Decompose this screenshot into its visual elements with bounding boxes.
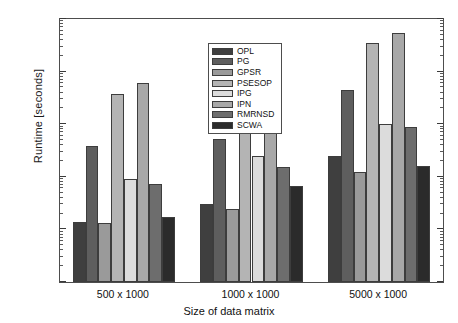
y-axis-minor-tick bbox=[440, 192, 443, 193]
y-axis-minor-tick bbox=[440, 92, 443, 93]
y-axis-minor-tick bbox=[440, 126, 443, 127]
y-axis-minor-tick bbox=[60, 160, 63, 161]
y-axis-minor-tick bbox=[440, 213, 443, 214]
bar bbox=[392, 33, 405, 282]
legend-item[interactable]: IPN bbox=[212, 99, 278, 110]
y-axis-major-tick bbox=[437, 123, 443, 124]
chart-legend: OPLPGGPSRPSESOPIPGIPNRMRNSDSCWA bbox=[208, 43, 282, 134]
legend-swatch bbox=[212, 101, 233, 108]
x-axis-title: Size of data matrix bbox=[0, 305, 458, 317]
y-axis-minor-tick bbox=[440, 46, 443, 47]
y-axis-minor-tick bbox=[60, 240, 63, 241]
legend-item[interactable]: SCWA bbox=[212, 120, 278, 131]
y-axis-minor-tick bbox=[440, 30, 443, 31]
x-group-label: 5000 x 1000 bbox=[349, 288, 407, 300]
y-axis-minor-tick bbox=[440, 34, 443, 35]
y-axis-minor-tick bbox=[440, 86, 443, 87]
y-axis-minor-tick bbox=[60, 23, 63, 24]
y-axis-minor-tick bbox=[440, 39, 443, 40]
y-axis-minor-tick bbox=[60, 26, 63, 27]
legend-item[interactable]: RMRNSD bbox=[212, 110, 278, 121]
y-axis-minor-tick bbox=[440, 181, 443, 182]
y-axis-minor-tick bbox=[60, 256, 63, 257]
x-group-label: 1000 x 1000 bbox=[222, 288, 280, 300]
x-axis-tick bbox=[252, 277, 253, 282]
y-axis-minor-tick bbox=[440, 55, 443, 56]
y-axis-minor-tick bbox=[440, 178, 443, 179]
y-axis-minor-tick bbox=[60, 265, 63, 266]
y-axis-major-tick bbox=[60, 71, 66, 72]
bar bbox=[149, 184, 162, 282]
y-axis-minor-tick bbox=[440, 26, 443, 27]
legend-swatch bbox=[212, 90, 233, 97]
y-axis-minor-tick bbox=[60, 128, 63, 129]
y-axis-minor-tick bbox=[440, 197, 443, 198]
y-axis-minor-tick bbox=[60, 184, 63, 185]
y-axis-minor-tick bbox=[440, 249, 443, 250]
y-axis-major-tick bbox=[437, 176, 443, 177]
y-axis-minor-tick bbox=[440, 144, 443, 145]
y-axis-minor-tick bbox=[60, 192, 63, 193]
legend-item[interactable]: PSESOP bbox=[212, 78, 278, 89]
y-axis-major-tick bbox=[60, 123, 66, 124]
legend-item[interactable]: OPL bbox=[212, 46, 278, 57]
bar bbox=[290, 186, 303, 282]
x-axis-tick bbox=[124, 277, 125, 282]
legend-item[interactable]: GPSR bbox=[212, 67, 278, 78]
legend-label: SCWA bbox=[237, 121, 262, 130]
legend-swatch bbox=[212, 111, 233, 118]
y-axis-major-tick bbox=[437, 18, 443, 19]
y-axis-minor-tick bbox=[60, 131, 63, 132]
bar-chart-figure: Runtime [seconds] 105104103102101100 OPL… bbox=[0, 0, 458, 323]
legend-label: GPSR bbox=[237, 68, 261, 77]
y-axis-minor-tick bbox=[440, 265, 443, 266]
y-axis-title: Runtime [seconds] bbox=[32, 6, 44, 226]
y-axis-minor-tick bbox=[60, 79, 63, 80]
y-axis-minor-tick bbox=[60, 234, 63, 235]
y-axis-minor-tick bbox=[60, 197, 63, 198]
y-axis-minor-tick bbox=[60, 203, 63, 204]
y-axis-minor-tick bbox=[440, 135, 443, 136]
y-axis-minor-tick bbox=[60, 135, 63, 136]
legend-item[interactable]: PG bbox=[212, 57, 278, 68]
y-axis-minor-tick bbox=[60, 76, 63, 77]
y-axis-minor-tick bbox=[440, 73, 443, 74]
y-axis-minor-tick bbox=[60, 181, 63, 182]
bar bbox=[213, 139, 226, 282]
y-axis-minor-tick bbox=[60, 30, 63, 31]
y-axis-minor-tick bbox=[60, 244, 63, 245]
y-axis-minor-tick bbox=[440, 231, 443, 232]
legend-swatch bbox=[212, 58, 233, 65]
y-axis-minor-tick bbox=[440, 187, 443, 188]
bar bbox=[111, 94, 124, 282]
y-axis-minor-tick bbox=[60, 55, 63, 56]
y-axis-major-tick bbox=[437, 71, 443, 72]
y-axis-minor-tick bbox=[440, 20, 443, 21]
y-axis-major-tick bbox=[437, 281, 443, 282]
y-axis-minor-tick bbox=[440, 184, 443, 185]
legend-label: IPN bbox=[237, 100, 251, 109]
y-axis-minor-tick bbox=[440, 151, 443, 152]
y-axis-minor-tick bbox=[60, 34, 63, 35]
y-axis-minor-tick bbox=[60, 249, 63, 250]
y-axis-minor-tick bbox=[440, 82, 443, 83]
y-axis-minor-tick bbox=[60, 144, 63, 145]
legend-swatch bbox=[212, 80, 233, 87]
bar bbox=[86, 146, 99, 282]
y-axis-minor-tick bbox=[440, 76, 443, 77]
legend-label: PG bbox=[237, 57, 249, 66]
y-axis-minor-tick bbox=[60, 82, 63, 83]
bar bbox=[98, 223, 111, 282]
bar bbox=[341, 90, 354, 282]
bar bbox=[328, 156, 341, 282]
y-axis-minor-tick bbox=[440, 203, 443, 204]
legend-item[interactable]: IPG bbox=[212, 88, 278, 99]
bar bbox=[162, 217, 175, 282]
y-axis-minor-tick bbox=[440, 98, 443, 99]
bar bbox=[124, 179, 137, 282]
y-axis-minor-tick bbox=[60, 86, 63, 87]
legend-swatch bbox=[212, 69, 233, 76]
bar bbox=[226, 209, 239, 282]
y-axis-major-tick bbox=[60, 18, 66, 19]
legend-label: RMRNSD bbox=[237, 110, 274, 119]
